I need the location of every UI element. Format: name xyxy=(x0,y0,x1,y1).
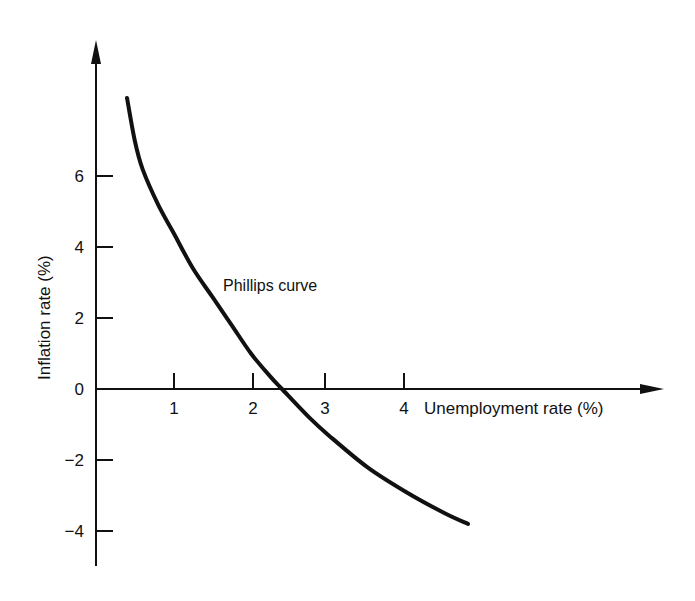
phillips-curve-line xyxy=(127,98,468,524)
y-tick-label: −4 xyxy=(65,522,84,541)
y-tick-label: 4 xyxy=(75,238,84,257)
x-axis-arrow-icon xyxy=(640,384,664,394)
y-tick-label: 0 xyxy=(75,380,84,399)
x-axis-label: Unemployment rate (%) xyxy=(424,399,604,418)
y-tick-label: −2 xyxy=(65,451,84,470)
phillips-curve-annotation: Phillips curve xyxy=(223,277,317,294)
x-tick-label: 2 xyxy=(248,399,257,418)
phillips-curve-chart: 6420−2−4 1234 Unemployment rate (%) Infl… xyxy=(0,0,695,601)
y-tick-label: 2 xyxy=(75,309,84,328)
x-tick-label: 4 xyxy=(399,399,408,418)
y-axis-arrow-icon xyxy=(91,40,101,64)
x-tick-label: 3 xyxy=(320,399,329,418)
y-axis-label: Inflation rate (%) xyxy=(35,255,54,380)
y-tick-label: 6 xyxy=(75,167,84,186)
x-tick-label: 1 xyxy=(169,399,178,418)
y-axis: 6420−2−4 xyxy=(65,40,113,566)
